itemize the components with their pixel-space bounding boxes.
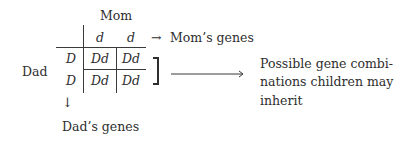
dad-allele-2: D [60,73,82,88]
result-line-2: nations children may [260,74,393,89]
mom-allele-2: d [117,30,145,45]
cell-r2-c1: Dd [84,73,116,88]
long-arrow-icon [171,68,246,80]
table-header-divider [56,47,146,48]
mom-label: Mom [100,8,132,23]
right-arrow-icon: → [151,30,161,45]
mom-genes-label: Mom’s genes [170,30,254,45]
table-row-divider [83,69,146,70]
cell-r1-c1: Dd [84,51,116,66]
dad-allele-1: D [60,51,82,66]
dad-label: Dad [22,64,47,79]
mom-allele-1: d [84,30,116,45]
dad-genes-label: Dad’s genes [62,119,139,134]
cell-r1-c2: Dd [117,51,145,66]
cell-r2-c2: Dd [117,73,145,88]
down-arrow-icon: ↓ [62,95,73,110]
result-line-1: Possible gene combi- [260,56,393,71]
bracket-icon [153,57,159,85]
result-line-3: inherit [260,93,303,108]
